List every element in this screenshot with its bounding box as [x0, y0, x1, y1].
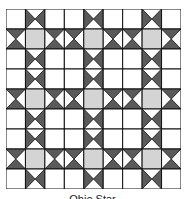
quilt-cell-hv — [142, 69, 161, 89]
quilt-cell-white — [64, 9, 83, 29]
quilt-cell-white — [6, 49, 25, 69]
quilt-cell-gray — [142, 149, 161, 169]
quilt-cell-white — [45, 129, 64, 149]
quilt-cell-hv — [142, 169, 161, 189]
quilt-cell-white — [123, 129, 142, 149]
quilt-cell-hh — [123, 29, 142, 49]
quilt-cell-gray — [142, 29, 161, 49]
quilt-cell-hv — [142, 129, 161, 149]
quilt-cell-white — [162, 129, 181, 149]
quilt-cell-hh — [45, 89, 64, 109]
quilt-cell-hh — [64, 149, 83, 169]
quilt-cell-white — [123, 109, 142, 129]
quilt-cell-hh — [103, 149, 122, 169]
quilt-cell-gray — [84, 89, 103, 109]
quilt-cell-white — [162, 9, 181, 29]
quilt-cell-hh — [45, 149, 64, 169]
figure-caption: Ohio Star — [0, 193, 185, 199]
quilt-cell-white — [162, 109, 181, 129]
quilt-cell-hh — [103, 89, 122, 109]
quilt-cell-white — [123, 9, 142, 29]
quilt-cell-hv — [84, 69, 103, 89]
quilt-cell-white — [64, 49, 83, 69]
quilt-cell-hv — [142, 49, 161, 69]
quilt-cell-gray — [142, 89, 161, 109]
quilt-cell-white — [103, 129, 122, 149]
quilt-cell-white — [45, 69, 64, 89]
quilt-cell-white — [103, 169, 122, 189]
quilt-cell-hv — [84, 109, 103, 129]
quilt-cell-hv — [142, 9, 161, 29]
quilt-cell-white — [45, 9, 64, 29]
quilt-cell-gray — [25, 149, 44, 169]
quilt-cell-hh — [45, 29, 64, 49]
quilt-cell-white — [6, 9, 25, 29]
quilt-cell-hh — [64, 89, 83, 109]
quilt-cell-white — [123, 69, 142, 89]
quilt-cell-white — [162, 169, 181, 189]
quilt-cell-white — [45, 169, 64, 189]
quilt-cell-white — [64, 109, 83, 129]
quilt-cell-hh — [162, 89, 181, 109]
quilt-cell-white — [162, 49, 181, 69]
quilt-cell-white — [123, 169, 142, 189]
quilt-cell-gray — [84, 29, 103, 49]
quilt-cell-white — [6, 169, 25, 189]
quilt-cell-hh — [162, 149, 181, 169]
quilt-cell-gray — [84, 149, 103, 169]
quilt-cell-white — [64, 69, 83, 89]
quilt-cell-hh — [123, 149, 142, 169]
quilt-cell-hh — [6, 149, 25, 169]
quilt-pattern — [6, 9, 181, 189]
quilt-cell-hv — [25, 69, 44, 89]
quilt-cell-gray — [25, 89, 44, 109]
quilt-cell-hh — [6, 29, 25, 49]
quilt-cell-white — [64, 129, 83, 149]
quilt-cell-hh — [6, 89, 25, 109]
quilt-cell-white — [162, 69, 181, 89]
quilt-cell-hv — [25, 169, 44, 189]
quilt-cell-hv — [25, 9, 44, 29]
quilt-cell-white — [64, 169, 83, 189]
quilt-cell-hv — [25, 49, 44, 69]
quilt-cell-white — [6, 109, 25, 129]
quilt-cell-gray — [25, 29, 44, 49]
quilt-cell-hh — [162, 29, 181, 49]
quilt-cell-hv — [84, 9, 103, 29]
quilt-cell-white — [6, 69, 25, 89]
quilt-cell-hv — [84, 49, 103, 69]
quilt-cell-hv — [84, 129, 103, 149]
quilt-cell-white — [103, 109, 122, 129]
quilt-cell-white — [45, 49, 64, 69]
quilt-cell-hh — [64, 29, 83, 49]
quilt-cell-white — [103, 9, 122, 29]
quilt-cell-hv — [25, 109, 44, 129]
quilt-cell-white — [45, 109, 64, 129]
quilt-cell-hh — [123, 89, 142, 109]
quilt-cell-hv — [25, 129, 44, 149]
quilt-cell-white — [103, 69, 122, 89]
quilt-cell-hh — [103, 29, 122, 49]
quilt-cell-hv — [142, 109, 161, 129]
quilt-cell-white — [103, 49, 122, 69]
quilt-cell-white — [123, 49, 142, 69]
quilt-cell-white — [6, 129, 25, 149]
quilt-cell-hv — [84, 169, 103, 189]
